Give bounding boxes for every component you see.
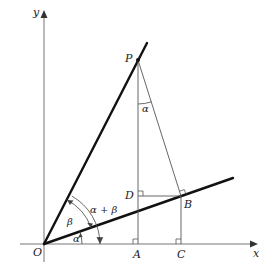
label-alpha-P: α <box>142 103 149 114</box>
right-angle-A-icon <box>133 239 138 244</box>
label-alpha-O: α <box>73 233 80 244</box>
label-beta-O: β <box>66 216 73 227</box>
x-axis-label: x <box>253 247 260 260</box>
label-B: B <box>183 198 192 211</box>
arc-alpha-plus-beta-arrow-icon <box>97 237 104 244</box>
segment-PB <box>138 60 181 196</box>
arc-beta-arrow-icon <box>67 200 74 205</box>
label-A: A <box>132 248 141 261</box>
arc-alpha-O <box>80 232 82 245</box>
right-angle-D-icon <box>138 191 143 196</box>
label-D: D <box>124 189 134 202</box>
point-P-dot <box>136 58 140 62</box>
label-C: C <box>177 248 186 261</box>
label-P: P <box>124 52 133 65</box>
right-angle-C-icon <box>176 239 181 244</box>
label-O: O <box>33 246 42 259</box>
y-axis-arrow-icon <box>41 10 48 18</box>
y-axis-label: y <box>32 6 40 19</box>
angle-addition-diagram: y x O P A B C D α β α + β α <box>0 0 268 274</box>
label-alpha-plus-beta: α + β <box>90 204 117 215</box>
